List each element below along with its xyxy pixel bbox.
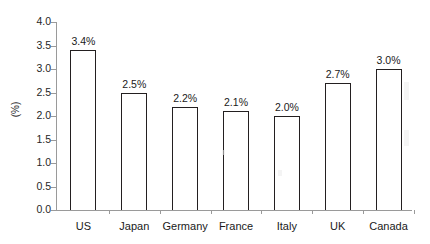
y-axis-tick-label: 1.0 (36, 156, 51, 168)
scan-artifact (404, 82, 409, 100)
bar (274, 116, 300, 210)
bar (70, 50, 96, 210)
y-axis-tick-label: 1.5 (36, 133, 51, 145)
bar-chart: (%) 0.00.51.01.52.02.53.03.54.0 3.4%2.5%… (0, 0, 430, 244)
x-axis-category-label: Japan (119, 220, 149, 232)
x-axis-category-label: France (219, 220, 253, 232)
y-axis-tick (51, 187, 56, 188)
x-axis-tick (160, 210, 161, 214)
x-axis-tick (261, 210, 262, 214)
x-axis-category-label: US (76, 220, 91, 232)
plot-area: 0.00.51.01.52.02.53.03.54.0 3.4%2.5%2.2%… (56, 22, 412, 210)
y-axis-tick (51, 163, 56, 164)
bar-value-label: 2.7% (326, 68, 350, 80)
y-axis-tick (51, 140, 56, 141)
bar (376, 69, 402, 210)
y-axis-tick-label: 2.5 (36, 86, 51, 98)
y-axis-tick-label: 3.5 (36, 39, 51, 51)
x-axis-category-label: UK (330, 220, 345, 232)
bar (325, 83, 351, 210)
bar-value-label: 3.4% (71, 35, 95, 47)
x-axis-category-label: Italy (277, 220, 297, 232)
x-axis-tick (211, 210, 212, 214)
y-axis-tick-label: 2.0 (36, 109, 51, 121)
y-axis-tick (51, 69, 56, 70)
y-axis-tick-label: 0.5 (36, 180, 51, 192)
scan-artifact (278, 170, 282, 176)
bar (223, 111, 249, 210)
y-axis-tick-label: 3.0 (36, 62, 51, 74)
bar-value-label: 3.0% (377, 54, 401, 66)
scan-artifact (222, 150, 225, 155)
y-axis-tick (51, 116, 56, 117)
x-axis-category-label: Germany (163, 220, 208, 232)
x-axis-category-label: Canada (369, 220, 408, 232)
x-axis-tick (414, 210, 415, 214)
y-axis-tick (51, 22, 56, 23)
y-axis-tick (51, 210, 56, 211)
y-axis-line (56, 22, 57, 210)
x-axis-tick (363, 210, 364, 214)
scan-artifact (404, 130, 409, 146)
y-axis-tick (51, 93, 56, 94)
bar-value-label: 2.2% (173, 92, 197, 104)
bar-value-label: 2.1% (224, 96, 248, 108)
bar (121, 93, 147, 211)
bar-value-label: 2.0% (275, 101, 299, 113)
y-axis-tick-label: 4.0 (36, 15, 51, 27)
x-axis-tick (312, 210, 313, 214)
bar (172, 107, 198, 210)
y-axis-tick-label: 0.0 (36, 203, 51, 215)
x-axis-tick (109, 210, 110, 214)
bar-value-label: 2.5% (122, 78, 146, 90)
y-axis-tick (51, 46, 56, 47)
y-axis-title: (%) (10, 97, 21, 123)
